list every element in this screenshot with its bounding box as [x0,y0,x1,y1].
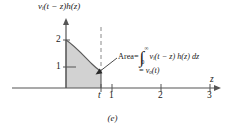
y-tick-label-1: 1 [56,62,61,72]
y-axis-label-fn-sub: i [42,5,44,11]
result-fn-sub: o [149,69,152,75]
x-tick-label-3: 3 [207,91,212,101]
integral-sign-group: ∫∞0 [139,51,150,63]
impulse-response-term: h(z) [177,52,190,61]
annotation-leader-line [99,58,117,72]
x-axis-label: z [210,75,214,85]
integral-upper-limit: ∞ [145,46,149,52]
figure-caption: (e) [0,114,225,123]
area-annotation-line-2: = vo(t) [139,67,199,75]
y-axis-label: vi(t − z)h(z) [38,2,80,11]
integral-lower-limit: 0 [142,60,145,66]
area-word: Area [118,52,134,61]
convolution-area-figure: vi(t − z)h(z) 2 1 t 1 2 3 z Area=∫∞0vi(t… [0,0,225,130]
area-annotation-line-1: Area=∫∞0vi(t − z) h(z) dz [118,51,199,63]
integrand-arg: (t − z) [155,52,176,61]
x-tick-label-t: t [98,91,101,101]
x-tick-label-1: 1 [109,91,114,101]
y-tick-label-2: 2 [56,35,61,45]
y-axis-label-arg: (t − z) [44,1,67,11]
x-axis-arrowhead [214,85,221,91]
differential-term: dz [192,52,199,61]
y-axis-arrowhead [63,18,69,25]
y-axis-label-h: h(z) [66,1,80,11]
x-tick-label-2: 2 [158,91,163,101]
result-arg: (t) [152,66,160,75]
shaded-area-region [66,40,101,88]
area-annotation: Area=∫∞0vi(t − z) h(z) dz = vo(t) [118,51,199,75]
result-equals: = [139,66,144,75]
integrand-fn-sub: i [153,55,154,61]
